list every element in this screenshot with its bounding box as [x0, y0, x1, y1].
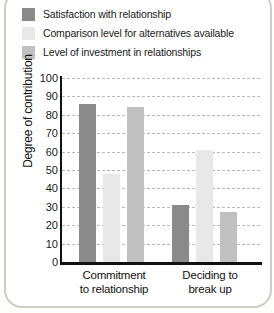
bar: [103, 174, 120, 262]
bar: [79, 104, 96, 262]
chart-screenshot: Satisfaction with relationship Compariso…: [0, 0, 274, 313]
y-tick-label: 20: [18, 219, 58, 231]
legend-label-comparison-level: Comparison level for alternatives availa…: [43, 27, 234, 39]
y-tick-label: 30: [18, 201, 58, 213]
y-tick-label: 90: [18, 90, 58, 102]
y-axis-line: [60, 76, 62, 264]
y-tick-label: 80: [18, 109, 58, 121]
bar: [172, 205, 189, 262]
legend-item-comparison-level: Comparison level for alternatives availa…: [22, 24, 272, 42]
bar: [127, 107, 144, 262]
y-axis-ticks: 0102030405060708090100: [14, 78, 58, 262]
plot-area: [62, 78, 260, 262]
y-tick-label: 50: [18, 164, 58, 176]
chart-legend: Satisfaction with relationship Compariso…: [22, 5, 272, 62]
legend-label-investment: Level of investment in relationships: [43, 46, 201, 58]
legend-label-satisfaction: Satisfaction with relationship: [43, 8, 171, 20]
y-tick-label: 10: [18, 238, 58, 250]
legend-swatch-satisfaction: [22, 8, 35, 21]
x-axis-category-label: Deciding tobreak up: [158, 268, 262, 296]
legend-item-investment: Level of investment in relationships: [22, 43, 272, 61]
y-tick-label: 60: [18, 146, 58, 158]
y-tick-label: 0: [18, 256, 58, 268]
x-axis-labels: Commitmentto relationshipDeciding tobrea…: [62, 268, 262, 310]
y-tick-label: 100: [18, 72, 58, 84]
bar: [196, 150, 213, 262]
y-tick-label: 70: [18, 127, 58, 139]
x-axis-category-label: Commitmentto relationship: [62, 268, 166, 296]
legend-item-satisfaction: Satisfaction with relationship: [22, 5, 272, 23]
bar-groups: [62, 78, 260, 262]
x-axis-line: [60, 262, 262, 265]
y-tick-label: 40: [18, 182, 58, 194]
bar: [220, 212, 237, 262]
